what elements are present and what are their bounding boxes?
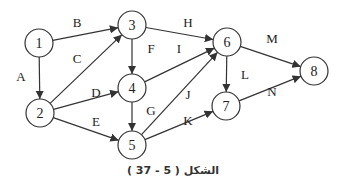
node-1: 1: [25, 29, 53, 57]
edge-label: C: [73, 51, 82, 66]
edge-c: [50, 35, 122, 104]
arrow-icon: [54, 92, 119, 110]
arrow-icon: [39, 57, 40, 99]
node-label: 1: [36, 36, 43, 51]
figure-caption: الشكل ( 5 - 37 ): [0, 164, 346, 177]
arrow-icon: [50, 35, 122, 104]
edge-d: [54, 92, 119, 110]
arrow-icon: [53, 118, 119, 141]
graph-figure: 12345678 ABCDEFGHIJKLMN الشكل ( 5 - 37 ): [0, 0, 346, 187]
edge-label: H: [183, 15, 192, 30]
node-label: 8: [311, 64, 318, 79]
edge-h: [146, 27, 213, 39]
arrow-icon: [146, 27, 213, 39]
node-label: 7: [223, 99, 230, 114]
edge-l: [226, 56, 227, 92]
node-label: 3: [129, 18, 136, 33]
edge-e: [53, 118, 119, 141]
edge-label: G: [146, 103, 155, 118]
arrow-icon: [240, 46, 300, 66]
node-5: 5: [118, 131, 146, 159]
edge-label: B: [73, 15, 82, 30]
edge-label: L: [241, 67, 249, 82]
node-6: 6: [213, 28, 241, 56]
network-diagram: 12345678 ABCDEFGHIJKLMN: [0, 0, 346, 187]
node-3: 3: [118, 11, 146, 39]
edge-label: K: [183, 113, 193, 128]
arrow-icon: [226, 56, 227, 92]
node-label: 2: [37, 106, 44, 121]
edge-label: M: [266, 31, 278, 46]
edge-label: J: [185, 87, 190, 102]
node-label: 6: [224, 35, 231, 50]
edge-label: E: [92, 114, 100, 129]
edge-label: I: [177, 41, 181, 56]
edge-label: F: [147, 41, 154, 56]
edge-label: N: [267, 84, 277, 99]
node-7: 7: [212, 92, 240, 120]
edge-a: [39, 57, 40, 99]
edge-label: A: [16, 69, 26, 84]
arrow-icon: [53, 28, 119, 41]
node-label: 5: [129, 138, 136, 153]
edge-b: [53, 28, 119, 41]
node-4: 4: [118, 74, 146, 102]
edge-label: D: [91, 85, 100, 100]
node-label: 4: [129, 81, 136, 96]
node-2: 2: [26, 99, 54, 127]
node-8: 8: [300, 57, 328, 85]
edge-m: [240, 46, 300, 66]
